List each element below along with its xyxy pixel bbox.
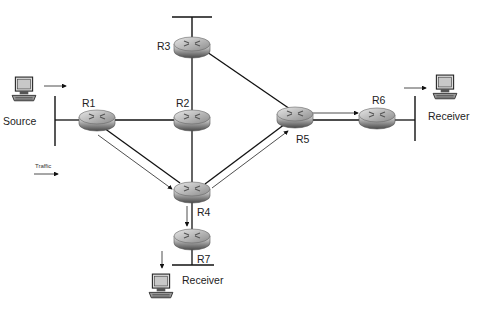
router-r7[interactable]	[174, 229, 210, 250]
host-receiver-r7[interactable]	[149, 274, 173, 298]
label-r1: R1	[82, 97, 96, 109]
router-r2[interactable]	[174, 110, 210, 131]
router-r1[interactable]	[79, 110, 115, 131]
link-r1-r4	[104, 128, 180, 183]
router-r3[interactable]	[174, 37, 210, 58]
router-icon	[359, 108, 395, 129]
network-diagram: R1 R2 R3 R4 R5 R6 R7 Source Receiver Rec…	[0, 0, 481, 317]
router-icon	[174, 229, 210, 250]
label-receiver-r7: Receiver	[182, 274, 224, 286]
computer-icon	[149, 274, 173, 298]
router-icon	[174, 37, 210, 58]
router-r6[interactable]	[359, 108, 395, 129]
label-source: Source	[3, 115, 36, 127]
router-r4[interactable]	[174, 182, 210, 203]
computer-icon	[12, 77, 36, 101]
router-icon	[174, 182, 210, 203]
label-r5: R5	[296, 133, 310, 145]
links	[55, 50, 415, 265]
lan-segments	[55, 17, 415, 265]
legend-traffic-label: Traffic	[35, 163, 51, 169]
label-r6: R6	[372, 94, 386, 106]
router-r5[interactable]	[277, 107, 313, 128]
label-receiver-r6: Receiver	[428, 110, 470, 122]
link-r4-r5	[205, 124, 285, 184]
host-receiver-r6[interactable]	[433, 75, 457, 99]
traffic-arrow-r1-r4	[98, 135, 172, 189]
host-source[interactable]	[12, 77, 36, 101]
router-icon	[277, 107, 313, 128]
link-r3-r5	[207, 52, 290, 109]
label-r3: R3	[157, 40, 171, 52]
label-r2: R2	[176, 97, 190, 109]
label-r4: R4	[197, 206, 211, 218]
router-icon	[174, 110, 210, 131]
computer-icon	[433, 75, 457, 99]
traffic-arrow-r4-r5	[212, 131, 288, 188]
router-icon	[79, 110, 115, 131]
label-r7: R7	[197, 253, 211, 265]
